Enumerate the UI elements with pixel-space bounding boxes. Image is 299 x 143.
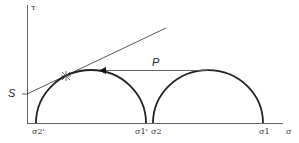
sigma2-prime-label: σ2' (32, 128, 45, 136)
tangent-point-star-icon (61, 71, 71, 81)
mohr-circle-right (153, 70, 263, 123)
sigma1-label: σ1 (259, 128, 270, 136)
sigma-axis-label: σ (286, 128, 291, 136)
translation-label: P (152, 57, 159, 68)
sigma2-label: σ2 (151, 128, 162, 136)
failure-envelope-line (27, 28, 166, 94)
tau-axis-label: τ (31, 4, 35, 12)
mohr-circle-left (36, 70, 146, 123)
mohr-diagram (0, 0, 299, 143)
sigma1-prime-label: σ1' (135, 128, 148, 136)
intercept-label: S (8, 88, 15, 99)
arrowhead-icon (99, 67, 106, 74)
